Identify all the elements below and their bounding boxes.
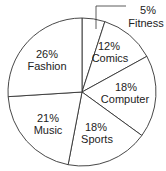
- label-fashion-pct: 26%: [36, 48, 58, 60]
- label-fitness-name: Fitness: [128, 17, 164, 29]
- label-fitness-pct: 5%: [140, 4, 156, 16]
- label-computer-pct: 18%: [115, 81, 137, 93]
- label-fashion-name: Fashion: [27, 60, 66, 72]
- label-comics-name: Comics: [92, 52, 129, 64]
- label-music-pct: 21%: [37, 112, 59, 124]
- label-sports-pct: 18%: [85, 121, 107, 133]
- pie-chart: 5% Fitness 12% Comics 18% Computer 18% S…: [0, 0, 166, 171]
- label-comics-pct: 12%: [98, 40, 120, 52]
- label-computer-name: Computer: [101, 93, 150, 105]
- label-music-name: Music: [34, 124, 63, 136]
- label-sports-name: Sports: [81, 133, 113, 145]
